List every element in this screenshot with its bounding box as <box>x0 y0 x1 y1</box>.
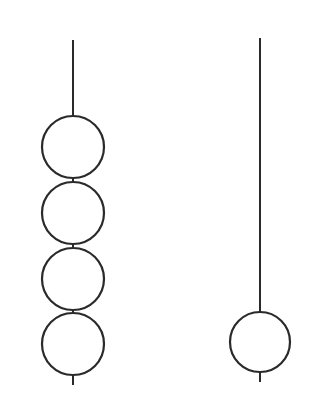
right-string-with-one-bead <box>230 38 290 382</box>
left-bead-4 <box>42 313 104 375</box>
bead-strings-diagram <box>0 0 324 416</box>
left-bead-3 <box>42 248 104 310</box>
left-bead-2 <box>42 182 104 244</box>
right-bead-1 <box>230 312 290 372</box>
left-bead-1 <box>42 116 104 178</box>
left-string-with-four-beads <box>42 40 104 385</box>
